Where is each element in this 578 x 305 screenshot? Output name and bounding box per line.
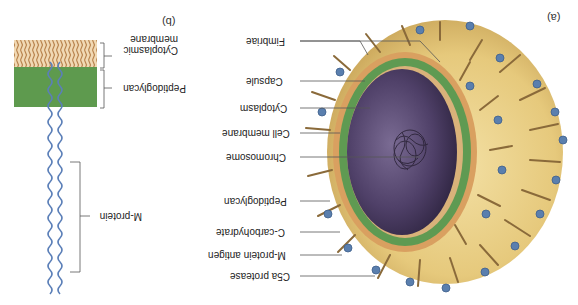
cytoplasmic-membrane-block <box>14 40 97 67</box>
peptidoglycan-block <box>14 67 97 107</box>
panel-b-tag: (b) <box>162 16 175 27</box>
label-cell-membrane: Cell membrane <box>222 128 298 139</box>
label-cytoplasm: Cytoplasm <box>240 103 298 114</box>
label-chromosome: Chromosome <box>226 152 298 163</box>
label-c-carbohydrate: C-carbohydrate <box>216 227 298 238</box>
label-peptidoglycan-b: Peptidoglycan <box>114 83 186 94</box>
label-m-protein: M-protein <box>92 211 142 222</box>
label-cytoplasmic-membrane: Cytoplasmic membrane <box>114 34 178 56</box>
panel-a-cell <box>306 20 567 292</box>
panel-b-wall-segment <box>14 40 97 107</box>
label-peptidoglycan: Peptidoglycan <box>224 196 298 207</box>
label-c5a-protease: C5a protease <box>230 271 298 282</box>
label-m-protein-antigen: M-protein antigen <box>208 250 298 261</box>
label-fimbriae: Fimbriae <box>246 36 298 47</box>
panel-a-tag: (a) <box>547 12 560 23</box>
label-capsule: Capsule <box>246 76 298 87</box>
streptococcus-figure: (a) (b) Fimbriae Capsule Cytoplasm Cell … <box>0 0 578 305</box>
